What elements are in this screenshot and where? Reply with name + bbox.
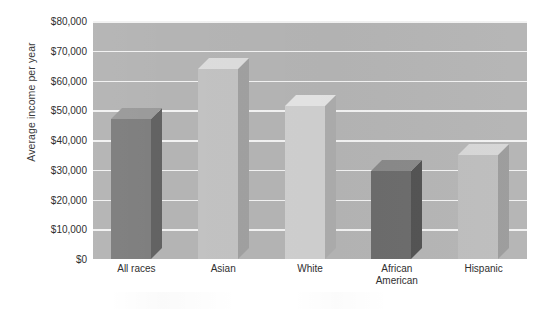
bar[interactable] [371,160,411,259]
plot-area [93,21,527,259]
x-axis-category-label: Hispanic [440,263,527,275]
x-axis-category-label: Asian [180,263,267,275]
bar-side-face [238,58,249,259]
bar[interactable] [285,95,325,259]
y-axis-tick-label: $0 [27,254,87,265]
y-axis-tick-label: $40,000 [27,135,87,146]
bar-front-face [111,119,151,259]
y-axis-tick-label: $60,000 [27,75,87,86]
y-axis-tick-label: $20,000 [27,194,87,205]
y-axis-tick-label: $80,000 [27,16,87,27]
y-axis-tick-label: $50,000 [27,105,87,116]
y-axis-tick-label: $30,000 [27,164,87,175]
y-axis-tick-labels: $0$10,000$20,000$30,000$40,000$50,000$60… [25,0,87,309]
gridline [93,51,527,53]
bar-front-face [371,171,411,259]
bar-side-face [411,160,422,259]
y-axis-tick-label: $10,000 [27,224,87,235]
bar-front-face [285,106,325,259]
x-axis-category-label: All races [93,263,180,275]
x-axis-category-label: White [267,263,354,275]
bar-chart: Average income per year $0$10,000$20,000… [0,0,542,309]
bar[interactable] [458,144,498,259]
bar[interactable] [198,58,238,259]
x-axis-category-labels: All racesAsianWhiteAfrican AmericanHispa… [93,263,527,303]
x-axis-category-label: African American [353,263,440,286]
y-axis-tick-label: $70,000 [27,45,87,56]
bar-side-face [325,95,336,259]
bar-front-face [458,155,498,259]
bar-side-face [151,108,162,259]
bar-front-face [198,69,238,259]
gridline [93,21,527,23]
bar-side-face [498,144,509,259]
bar[interactable] [111,108,151,259]
gridline [93,81,527,83]
